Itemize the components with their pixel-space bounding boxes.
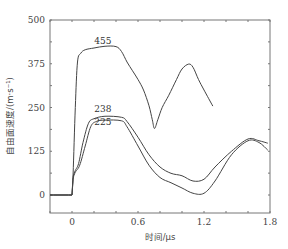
- y-tick-label: 500: [28, 15, 45, 25]
- y-tick-label: 375: [28, 59, 45, 69]
- annotation-225: 225: [94, 117, 111, 127]
- x-tick-label: 0: [69, 217, 75, 227]
- curve-225: [50, 120, 268, 195]
- y-tick-label: 0: [39, 190, 45, 200]
- data-curves: [50, 46, 268, 195]
- annotation-238: 238: [94, 104, 111, 114]
- x-tick-label: 0.6: [131, 217, 146, 227]
- curve-annotations: 455238225: [94, 36, 111, 127]
- line-chart: 00.61.21.80125250375500 455238225 时间/μs …: [0, 0, 288, 249]
- y-tick-label: 250: [28, 103, 45, 113]
- x-tick-label: 1.2: [197, 217, 211, 227]
- plot-frame: [50, 20, 270, 213]
- x-axis-label: 时间/μs: [145, 232, 176, 242]
- y-axis-label: 自由面速度/(m·s⁻¹): [5, 77, 15, 155]
- annotation-455: 455: [94, 36, 111, 46]
- y-tick-label: 125: [28, 146, 45, 156]
- axis-ticks: [50, 20, 270, 213]
- x-tick-label: 1.8: [263, 217, 278, 227]
